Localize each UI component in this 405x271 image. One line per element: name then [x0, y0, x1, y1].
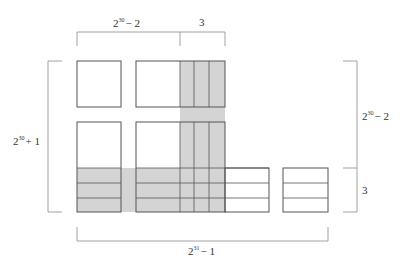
- label-right-top: 230− 2: [362, 110, 389, 122]
- label-top-left: 230− 2: [113, 17, 140, 29]
- label-top-right: 3: [199, 17, 205, 28]
- label-right-bottom: 3: [362, 185, 368, 196]
- shaded-regions: [77, 61, 225, 212]
- label-bottom: 231− 1: [188, 245, 215, 257]
- diagram-canvas: [0, 0, 405, 271]
- label-left: 230+ 1: [13, 135, 40, 147]
